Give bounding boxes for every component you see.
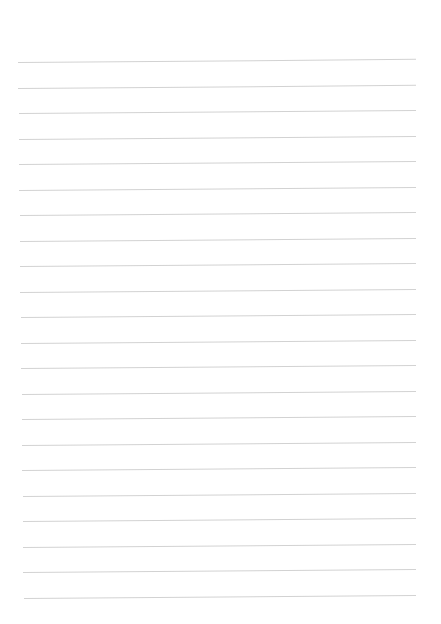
ruled-line xyxy=(23,493,416,497)
ruled-line xyxy=(20,212,416,216)
ruled-line xyxy=(21,365,416,369)
ruled-line xyxy=(19,187,416,191)
ruled-line xyxy=(19,110,416,114)
ruled-line xyxy=(18,85,416,89)
ruled-line xyxy=(19,136,416,140)
ruled-line xyxy=(24,595,416,599)
ruled-line xyxy=(22,467,416,471)
ruled-line xyxy=(20,238,416,242)
ruled-line xyxy=(22,442,416,446)
ruled-line xyxy=(23,569,416,573)
ruled-line xyxy=(19,161,416,165)
ruled-line xyxy=(22,416,416,420)
ruled-line xyxy=(23,544,416,548)
ruled-line xyxy=(20,289,416,293)
ruled-line xyxy=(22,391,416,395)
ruled-line xyxy=(21,340,416,344)
lined-paper-page xyxy=(0,0,441,624)
ruled-line xyxy=(23,518,416,522)
ruled-line xyxy=(20,263,416,267)
ruled-line xyxy=(21,314,416,318)
ruled-line xyxy=(18,59,416,63)
